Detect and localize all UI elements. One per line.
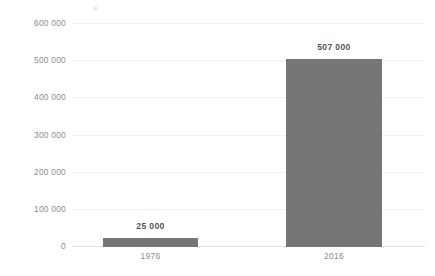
y-tick-label-500000: 500 000 bbox=[4, 56, 66, 64]
bar-value-label-2016: 507 000 bbox=[286, 43, 382, 52]
bar-1976[interactable] bbox=[103, 238, 198, 247]
y-tick-label-100000: 100 000 bbox=[4, 205, 66, 213]
bar-2016[interactable] bbox=[286, 59, 382, 247]
scan-artifact bbox=[93, 6, 98, 11]
bar-value-label-1976: 25 000 bbox=[103, 222, 198, 231]
y-tick-label-600000: 600 000 bbox=[4, 19, 66, 27]
y-tick-label-300000: 300 000 bbox=[4, 131, 66, 139]
gridline-600000 bbox=[72, 23, 425, 24]
y-axis: 600 000 500 000 400 000 300 000 200 000 … bbox=[0, 18, 66, 247]
plot-area bbox=[72, 18, 425, 247]
y-tick-label-400000: 400 000 bbox=[4, 93, 66, 101]
x-category-label-2016: 2016 bbox=[286, 252, 382, 260]
x-category-label-1976: 1976 bbox=[103, 252, 198, 260]
y-tick-label-200000: 200 000 bbox=[4, 168, 66, 176]
bar-chart: 600 000 500 000 400 000 300 000 200 000 … bbox=[0, 0, 435, 276]
y-tick-label-0: 0 bbox=[4, 242, 66, 250]
